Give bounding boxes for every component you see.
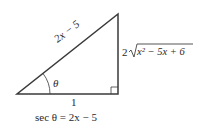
triangle-figure: [0, 0, 209, 129]
opposite-coefficient: 2: [122, 47, 128, 58]
right-angle-marker: [111, 87, 118, 94]
caption: sec θ = 2x − 5: [35, 112, 97, 123]
adjacent-label: 1: [71, 97, 77, 108]
opposite-radicand: x² − 5x + 6: [137, 47, 185, 58]
angle-label: θ: [53, 78, 58, 89]
angle-arc: [43, 74, 50, 95]
